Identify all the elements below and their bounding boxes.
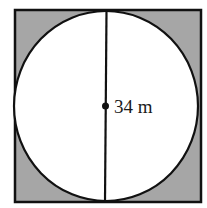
inscribed-circle-diagram: 34 m	[0, 0, 207, 208]
center-point	[102, 103, 109, 110]
diameter-label: 34 m	[114, 96, 153, 117]
